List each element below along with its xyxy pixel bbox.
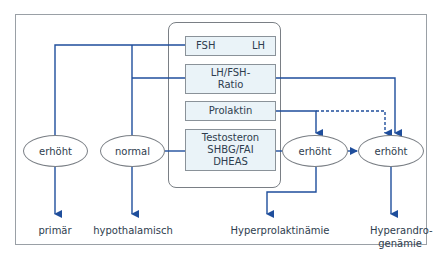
- ellipse-label: erhöht: [299, 146, 332, 157]
- ratio-line2: Ratio: [218, 79, 244, 91]
- box-testosteron: Testosteron SHBG/FAI DHEAS: [185, 129, 276, 171]
- outcome-primaer: primär: [30, 224, 80, 237]
- ellipse-label: erhöht: [39, 146, 72, 157]
- ellipse-label: normal: [115, 146, 150, 157]
- ellipse-erhoeht-androgen: erhöht: [358, 135, 424, 167]
- test-line3: DHEAS: [213, 156, 248, 168]
- prolaktin-label: Prolaktin: [209, 105, 253, 117]
- hyperandro-line2: genämie: [370, 237, 430, 250]
- outcome-hyperandrogenaemie: Hyperandro- genämie: [370, 224, 430, 250]
- ellipse-normal: normal: [100, 135, 165, 167]
- fsh-label: FSH: [196, 40, 215, 52]
- line-fsh-to-erhoeht: [55, 45, 185, 135]
- hyperandro-line1: Hyperandro-: [370, 224, 430, 237]
- ellipse-erhoeht-primaer: erhöht: [23, 135, 88, 167]
- box-lh-fsh-ratio: LH/FSH- Ratio: [185, 64, 276, 94]
- outcome-hyperprolaktinaemie: Hyperprolaktinämie: [230, 224, 330, 237]
- lh-label: LH: [252, 40, 265, 52]
- ellipse-label: erhöht: [375, 146, 408, 157]
- ratio-line1: LH/FSH-: [211, 67, 251, 79]
- diagnostic-flowchart: FSH LH LH/FSH- Ratio Prolaktin Testoster…: [0, 0, 440, 264]
- outcome-hypothalamisch: hypothalamisch: [92, 224, 174, 237]
- ellipse-erhoeht-prolaktin: erhöht: [282, 135, 348, 167]
- test-line1: Testosteron: [202, 132, 259, 144]
- test-line2: SHBG/FAI: [207, 144, 253, 156]
- box-fsh-lh: FSH LH: [185, 36, 276, 56]
- box-prolaktin: Prolaktin: [185, 101, 276, 121]
